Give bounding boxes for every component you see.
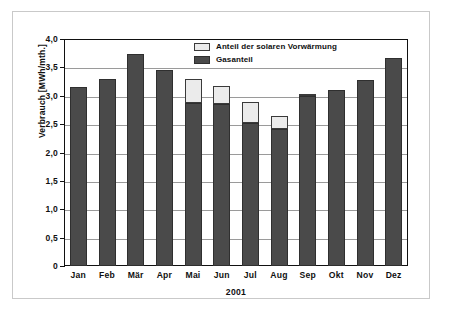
y-tick-label: 3,0 bbox=[18, 91, 58, 101]
bar-segment-solar bbox=[242, 102, 259, 123]
bar-group bbox=[156, 39, 173, 266]
y-tick-mark bbox=[60, 67, 65, 68]
legend-swatch-gas-icon bbox=[194, 56, 210, 64]
y-tick-mark bbox=[60, 124, 65, 125]
y-tick-mark bbox=[60, 209, 65, 210]
y-tick-mark bbox=[60, 96, 65, 97]
x-tick-label: Dez bbox=[374, 270, 414, 280]
chart-legend: Anteil der solaren Vorwärmung Gasanteil bbox=[194, 41, 366, 67]
bar-group bbox=[99, 39, 116, 266]
y-tick-mark bbox=[60, 238, 65, 239]
bar-segment-solar bbox=[213, 86, 230, 104]
bar-segment-gas bbox=[328, 90, 345, 266]
bar-segment-gas bbox=[242, 123, 259, 266]
bar-group bbox=[357, 39, 374, 266]
bar-segment-gas bbox=[127, 54, 144, 266]
legend-label-gas: Gasanteil bbox=[216, 55, 253, 64]
y-tick-mark bbox=[60, 266, 65, 267]
x-axis-title: 2001 bbox=[64, 287, 408, 297]
bar-segment-gas bbox=[385, 58, 402, 266]
bar-group bbox=[299, 39, 316, 266]
bar-segment-gas bbox=[185, 103, 202, 266]
y-tick-label: 1,0 bbox=[18, 204, 58, 214]
bar-group bbox=[213, 39, 230, 266]
bar-segment-solar bbox=[271, 116, 288, 130]
y-tick-label: 0 bbox=[18, 261, 58, 271]
bar-segment-gas bbox=[299, 96, 316, 266]
y-tick-label: 2,5 bbox=[18, 119, 58, 129]
y-tick-label: 4,0 bbox=[18, 34, 58, 44]
legend-label-solar: Anteil der solaren Vorwärmung bbox=[216, 42, 337, 51]
bar-group bbox=[271, 39, 288, 266]
y-tick-mark bbox=[60, 153, 65, 154]
bar-group bbox=[328, 39, 345, 266]
bar-group bbox=[185, 39, 202, 266]
bar-segment-gas bbox=[70, 87, 87, 266]
bar-segment-solar bbox=[185, 79, 202, 103]
legend-item-gas: Gasanteil bbox=[194, 54, 366, 65]
y-tick-label: 0,5 bbox=[18, 233, 58, 243]
y-tick-label: 1,5 bbox=[18, 176, 58, 186]
bar-segment-gas bbox=[271, 129, 288, 266]
bar-group bbox=[385, 39, 402, 266]
y-tick-label: 2,0 bbox=[18, 148, 58, 158]
legend-swatch-solar-icon bbox=[194, 43, 210, 51]
bar-group bbox=[70, 39, 87, 266]
bar-group bbox=[127, 39, 144, 266]
y-tick-label: 3,5 bbox=[18, 62, 58, 72]
legend-item-solar: Anteil der solaren Vorwärmung bbox=[194, 41, 366, 52]
bar-segment-gas bbox=[213, 104, 230, 266]
bar-group bbox=[242, 39, 259, 266]
y-tick-mark bbox=[60, 39, 65, 40]
y-tick-mark bbox=[60, 181, 65, 182]
bar-segment-gas bbox=[156, 70, 173, 266]
bar-segment-solar bbox=[299, 94, 316, 96]
bar-segment-gas bbox=[357, 80, 374, 266]
chart-figure: Verbrauch [MWh/mth.] 4,03,53,02,52,01,51… bbox=[0, 0, 456, 319]
bar-segment-gas bbox=[99, 79, 116, 266]
